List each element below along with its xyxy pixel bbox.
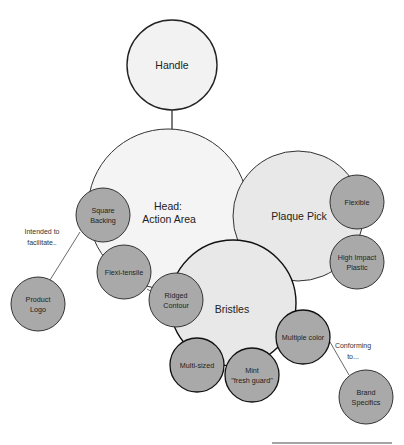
node-mint[interactable]: Mint "fresh guard" [225,348,279,402]
node-multi-sized[interactable]: Multi-sized [170,338,224,392]
node-handle-label: Handle [155,59,188,71]
node-brand-specifics-label-2: Specifics [352,398,381,407]
node-brand-specifics-label-1: Brand [356,388,375,397]
node-mint-label-1: Mint [245,366,259,375]
node-flexi-tensile[interactable]: Flexi-tensile [97,245,151,299]
toothbrush-bubble-diagram: Handle Head: Action Area Plaque Pick Bri… [0,0,404,445]
annotation-intended-1: Intended to [24,228,59,235]
node-head-label-2: Action Area [142,213,196,225]
node-product-logo-label-1: Product [26,295,51,304]
annotation-conforming-2: to... [347,353,359,360]
node-flexible[interactable]: Flexible [330,175,384,229]
node-plaque-pick-label: Plaque Pick [271,210,327,222]
node-ridged-contour[interactable]: Ridged Contour [149,273,203,327]
node-high-impact-plastic-label-2: Plastic [346,263,368,272]
node-multiple-color-label: Multiple color [282,333,325,342]
annotation-conforming-1: Conforming [335,342,371,350]
node-multiple-color[interactable]: Multiple color [276,310,330,364]
node-brand-specifics[interactable]: Brand Specifics [339,370,393,424]
node-mint-label-2: "fresh guard" [231,376,273,385]
node-handle[interactable]: Handle [127,20,217,110]
node-head-label-1: Head: [154,200,182,212]
node-multi-sized-label: Multi-sized [180,361,214,370]
node-square-backing-label-1: Square [91,206,114,215]
node-square-backing[interactable]: Square Backing [76,188,130,242]
node-product-logo-label-2: Logo [30,305,46,314]
node-flexible-label: Flexible [345,198,370,207]
node-high-impact-plastic-label-1: High Impact [338,253,376,262]
node-high-impact-plastic[interactable]: High Impact Plastic [330,235,384,289]
node-ridged-contour-label-1: Ridged [165,291,188,300]
node-square-backing-label-2: Backing [90,216,116,225]
node-flexi-tensile-label: Flexi-tensile [105,268,143,277]
node-bristles-label: Bristles [215,303,249,315]
node-product-logo[interactable]: Product Logo [11,277,65,331]
node-ridged-contour-label-2: Contour [163,301,189,310]
annotation-intended-2: facilitate.. [27,239,57,246]
